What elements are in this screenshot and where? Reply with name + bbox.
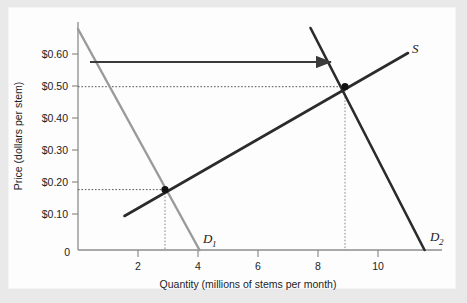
y-tick-label-0.60: $0.60: [42, 48, 68, 60]
y-tick-label-0.50: $0.50: [42, 80, 68, 92]
equilibrium-point-1: [161, 186, 168, 193]
figure-root: $0.60 $0.50 $0.40 $0.30 $0.20 $0.10 0 2 …: [0, 0, 467, 303]
x-tick-label-10: 10: [372, 260, 384, 272]
y-tick-label-0.10: $0.10: [42, 208, 68, 220]
curve-label-d1-group: D 1: [202, 231, 217, 249]
x-axis-ticks: [138, 250, 378, 257]
y-tick-label-0.20: $0.20: [42, 176, 68, 188]
supply-demand-chart: $0.60 $0.50 $0.40 $0.30 $0.20 $0.10 0 2 …: [0, 0, 467, 303]
y-axis-title: Price (dollars per stem): [12, 82, 24, 191]
x-axis-title: Quantity (millions of stems per month): [160, 278, 337, 290]
x-tick-label-2: 2: [135, 260, 141, 272]
x-axis-tick-labels: 2 4 6 8 10: [135, 260, 384, 272]
axes: [78, 22, 442, 250]
curve-label-s-group: S: [412, 41, 419, 56]
y-tick-label-0.40: $0.40: [42, 112, 68, 124]
curve-label-d2-group: D 2: [429, 229, 444, 247]
y-axis-ticks: [72, 54, 78, 214]
x-tick-label-4: 4: [195, 260, 201, 272]
equilibrium-point-2: [341, 83, 348, 90]
origin-label: 0: [64, 246, 70, 258]
y-axis-tick-labels: $0.60 $0.50 $0.40 $0.30 $0.20 $0.10 0: [42, 48, 70, 258]
curve-label-s: S: [412, 41, 419, 56]
x-tick-label-6: 6: [255, 260, 261, 272]
curve-label-d1-subscript: 1: [212, 239, 217, 249]
curve-label-d2-subscript: 2: [439, 237, 444, 247]
x-tick-label-8: 8: [315, 260, 321, 272]
y-tick-label-0.30: $0.30: [42, 144, 68, 156]
